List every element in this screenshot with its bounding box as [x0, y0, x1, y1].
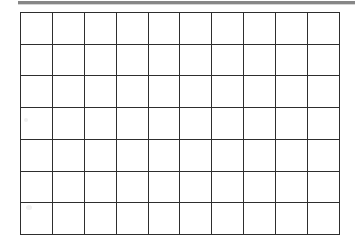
grid-cell[interactable]	[276, 44, 308, 76]
grid-cell[interactable]	[244, 44, 276, 76]
table-row	[21, 171, 340, 203]
grid-cell[interactable]	[116, 44, 148, 76]
grid-cell[interactable]	[212, 13, 244, 45]
grid-cell[interactable]	[212, 203, 244, 235]
grid-cell[interactable]	[21, 76, 53, 108]
grid-cell[interactable]	[308, 108, 340, 140]
grid-cell[interactable]	[21, 139, 53, 171]
grid-cell[interactable]	[180, 44, 212, 76]
top-edge-rule-shadow	[18, 4, 355, 5]
grid-cell[interactable]	[308, 203, 340, 235]
grid-cell[interactable]	[212, 139, 244, 171]
grid-cell[interactable]	[84, 44, 116, 76]
grid-cell[interactable]	[52, 203, 84, 235]
grid-cell[interactable]	[244, 108, 276, 140]
grid-cell[interactable]	[308, 76, 340, 108]
grid-cell[interactable]	[84, 76, 116, 108]
grid-cell[interactable]	[244, 13, 276, 45]
grid-cell[interactable]	[148, 44, 180, 76]
grid-cell[interactable]	[52, 76, 84, 108]
grid-cell[interactable]	[180, 108, 212, 140]
grid-cell[interactable]	[276, 139, 308, 171]
grid-cell[interactable]	[148, 203, 180, 235]
grid-cell[interactable]	[116, 203, 148, 235]
grid-cell[interactable]	[21, 203, 53, 235]
blank-grid-table	[20, 12, 340, 235]
grid-cell[interactable]	[244, 171, 276, 203]
grid-cell[interactable]	[244, 203, 276, 235]
grid-cell[interactable]	[116, 171, 148, 203]
grid-cell[interactable]	[148, 171, 180, 203]
grid-cell[interactable]	[84, 108, 116, 140]
grid-cell[interactable]	[244, 76, 276, 108]
grid-cell[interactable]	[180, 171, 212, 203]
grid-cell[interactable]	[84, 139, 116, 171]
grid-cell[interactable]	[308, 171, 340, 203]
grid-cell[interactable]	[148, 13, 180, 45]
table-row	[21, 203, 340, 235]
grid-cell[interactable]	[276, 13, 308, 45]
grid-cell[interactable]	[148, 108, 180, 140]
grid-cell[interactable]	[116, 13, 148, 45]
page-canvas	[0, 0, 355, 251]
grid-cell[interactable]	[52, 139, 84, 171]
grid-cell[interactable]	[212, 108, 244, 140]
grid-cell[interactable]	[212, 171, 244, 203]
grid-cell[interactable]	[21, 108, 53, 140]
grid-cell[interactable]	[52, 108, 84, 140]
table-row	[21, 76, 340, 108]
table-row	[21, 13, 340, 45]
grid-cell[interactable]	[276, 171, 308, 203]
grid-cell[interactable]	[84, 203, 116, 235]
table-row	[21, 139, 340, 171]
grid-body	[21, 13, 340, 235]
grid-cell[interactable]	[276, 76, 308, 108]
grid-cell[interactable]	[148, 139, 180, 171]
grid-cell[interactable]	[52, 171, 84, 203]
grid-cell[interactable]	[148, 76, 180, 108]
grid-cell[interactable]	[84, 13, 116, 45]
grid-cell[interactable]	[308, 139, 340, 171]
grid-cell[interactable]	[52, 44, 84, 76]
grid-cell[interactable]	[244, 139, 276, 171]
grid-cell[interactable]	[308, 44, 340, 76]
grid-cell[interactable]	[116, 76, 148, 108]
grid-cell[interactable]	[180, 139, 212, 171]
grid-cell[interactable]	[212, 44, 244, 76]
grid-cell[interactable]	[84, 171, 116, 203]
grid-cell[interactable]	[212, 76, 244, 108]
grid-cell[interactable]	[308, 13, 340, 45]
grid-cell[interactable]	[116, 139, 148, 171]
grid-cell[interactable]	[21, 13, 53, 45]
grid-cell[interactable]	[116, 108, 148, 140]
grid-cell[interactable]	[180, 203, 212, 235]
grid-cell[interactable]	[180, 13, 212, 45]
table-row	[21, 44, 340, 76]
grid-cell[interactable]	[276, 108, 308, 140]
table-row	[21, 108, 340, 140]
grid-cell[interactable]	[52, 13, 84, 45]
grid-cell[interactable]	[21, 171, 53, 203]
grid-cell[interactable]	[276, 203, 308, 235]
grid-cell[interactable]	[180, 76, 212, 108]
grid-cell[interactable]	[21, 44, 53, 76]
